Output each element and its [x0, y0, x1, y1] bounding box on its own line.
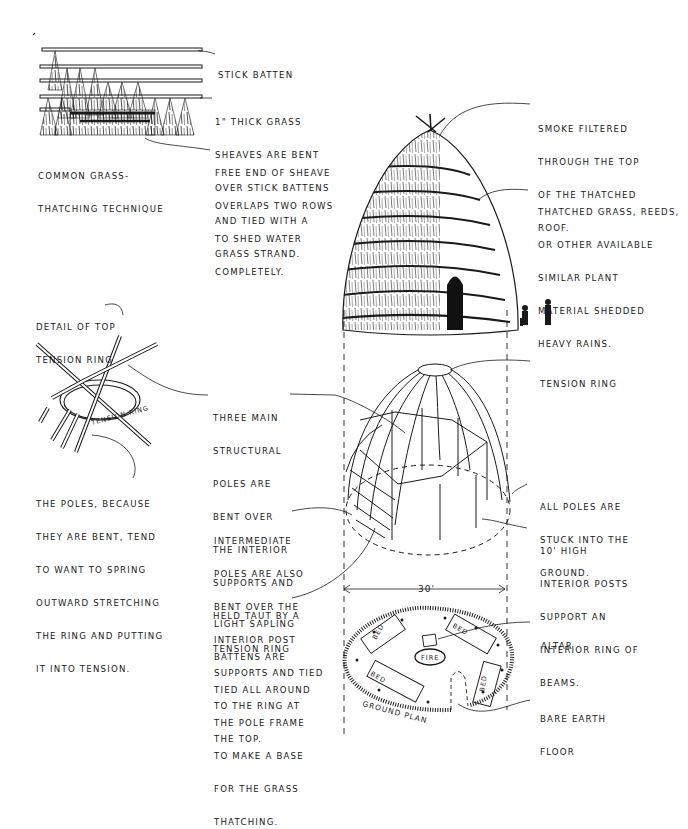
label-altar: ALTAR	[541, 619, 573, 663]
ground-plan-caption: GROUND PLAN	[361, 699, 428, 725]
label-detail-top-tension-ring: DETAIL OF TOP TENSION RING	[36, 300, 116, 377]
label-sapling-battens: LIGHT SAPLING BATTENS ARE TIED ALL AROUN…	[214, 597, 311, 829]
label-poles-tension-note: THE POLES, BECAUSE THEY ARE BENT, TEND T…	[36, 477, 163, 686]
ground-plan-sketch	[344, 585, 512, 710]
tension-ring-inline-label: TENSION RING	[89, 404, 149, 427]
fire-label: FIRE	[421, 654, 439, 662]
thatched-house-sketch	[340, 114, 551, 340]
bed-label: BED	[371, 623, 386, 641]
label-stick-batten: STICK BATTEN	[218, 48, 293, 92]
bed-label: BED	[478, 675, 489, 693]
projection-lines	[344, 310, 507, 735]
label-free-end: FREE END OF SHEAVE OVERLAPS TWO ROWS TO …	[215, 146, 333, 289]
caption-thatching-technique: COMMON GRASS- THATCHING TECHNIQUE	[38, 149, 164, 226]
thatching-technique-sketch	[40, 48, 202, 135]
label-thatched-grass: THATCHED GRASS, REEDS, OR OTHER AVAILABL…	[538, 185, 679, 361]
dimension-label: 30'	[418, 584, 435, 594]
ground-plan-inline-text: BED BED BED BED FIRE GROUND PLAN 30'	[361, 584, 488, 725]
leader-lines-frame	[292, 360, 530, 598]
label-bare-earth-floor: BARE EARTH FLOOR	[540, 692, 606, 769]
pole-frame-sketch	[346, 364, 510, 555]
label-tension-ring: TENSION RING	[540, 357, 617, 401]
label-interior-posts: 10' HIGH INTERIOR POSTS SUPPORT AN INTER…	[540, 524, 639, 700]
